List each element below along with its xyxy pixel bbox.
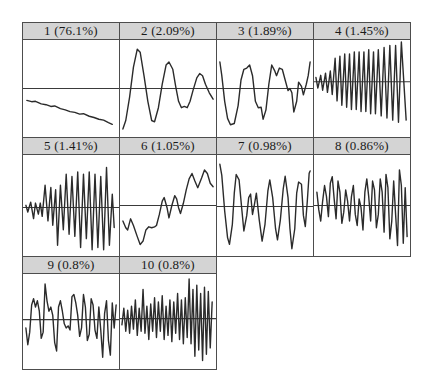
panel-title-4: 4 (1.45%) (314, 23, 410, 40)
component-waveform (26, 168, 114, 250)
component-panel-4: 4 (1.45%) (313, 22, 411, 138)
component-panel-2: 2 (2.09%) (119, 22, 217, 138)
panel-plot-7 (217, 155, 313, 256)
panel-plot-10 (120, 274, 216, 369)
waveform-chart-8 (314, 155, 410, 256)
component-panel-6: 6 (1.05%) (119, 137, 217, 257)
panel-title-6: 6 (1.05%) (120, 138, 216, 155)
waveform-chart-1 (23, 40, 119, 137)
panel-row-2: 5 (1.41%)6 (1.05%)7 (0.98%)8 (0.86%) (22, 137, 411, 257)
panel-row-1: 1 (76.1%)2 (2.09%)3 (1.89%)4 (1.45%) (22, 22, 411, 138)
panel-plot-9 (23, 274, 119, 369)
panel-title-3: 3 (1.89%) (217, 23, 313, 40)
waveform-chart-7 (217, 155, 313, 256)
panel-row-3: 9 (0.8%)10 (0.8%) (22, 256, 411, 370)
panel-title-9: 9 (0.8%) (23, 257, 119, 274)
component-waveform (123, 170, 213, 245)
component-panel-3: 3 (1.89%) (216, 22, 314, 138)
component-waveform (123, 49, 213, 129)
panel-title-7: 7 (0.98%) (217, 138, 313, 155)
component-waveform (122, 279, 212, 361)
panel-plot-8 (314, 155, 410, 256)
waveform-chart-9 (23, 274, 119, 369)
component-panel-1: 1 (76.1%) (22, 22, 120, 138)
waveform-chart-3 (217, 40, 313, 137)
waveform-chart-6 (120, 155, 216, 256)
waveform-chart-10 (120, 274, 216, 369)
component-waveform (317, 170, 407, 246)
panel-plot-6 (120, 155, 216, 256)
panel-title-5: 5 (1.41%) (23, 138, 119, 155)
waveform-chart-2 (120, 40, 216, 137)
panel-title-2: 2 (2.09%) (120, 23, 216, 40)
component-panel-8: 8 (0.86%) (313, 137, 411, 257)
component-grid-figure: 1 (76.1%)2 (2.09%)3 (1.89%)4 (1.45%)5 (1… (22, 22, 411, 370)
panel-plot-2 (120, 40, 216, 137)
component-panel-10: 10 (0.8%) (119, 256, 217, 370)
panel-title-1: 1 (76.1%) (23, 23, 119, 40)
component-panel-7: 7 (0.98%) (216, 137, 314, 257)
panel-title-10: 10 (0.8%) (120, 257, 216, 274)
panel-plot-3 (217, 40, 313, 137)
component-waveform (220, 62, 310, 125)
component-waveform (26, 284, 116, 357)
panel-plot-5 (23, 155, 119, 256)
waveform-chart-4 (314, 40, 410, 137)
waveform-chart-5 (23, 155, 119, 256)
panel-plot-1 (23, 40, 119, 137)
component-waveform (27, 100, 112, 124)
component-panel-9: 9 (0.8%) (22, 256, 120, 370)
panel-plot-4 (314, 40, 410, 137)
component-panel-5: 5 (1.41%) (22, 137, 120, 257)
panel-title-8: 8 (0.86%) (314, 138, 410, 155)
